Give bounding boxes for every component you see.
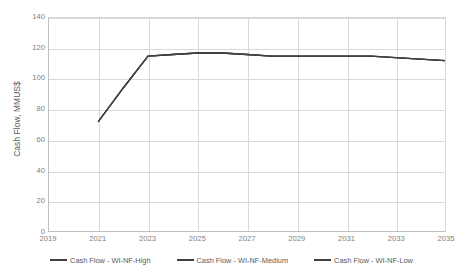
x-axis-tick-labels: 201920212023202520272029203120332035	[48, 234, 446, 246]
x-axis-tick-label: 2025	[177, 234, 217, 244]
y-axis-title: Cash Flow, MMUS$	[9, 0, 25, 238]
legend-entry[interactable]: Cash Flow - WI-NF-Low	[314, 256, 413, 265]
legend-label: Cash Flow - WI-NF-High	[70, 256, 150, 265]
legend-entry[interactable]: Cash Flow - WI-NF-High	[50, 256, 150, 265]
x-axis-tick-label: 2027	[227, 234, 267, 244]
y-axis-tick-label: 60	[24, 136, 45, 144]
series-line	[99, 53, 446, 121]
series-line	[99, 53, 446, 121]
x-axis-tick-label: 2021	[78, 234, 118, 244]
series-line	[99, 53, 446, 121]
cash-flow-line-chart: Cash Flow, MMUS$ 020406080100120140 2019…	[0, 0, 463, 274]
series-svg	[49, 18, 445, 231]
y-axis-tick-label: 120	[24, 44, 45, 52]
y-axis-title-text: Cash Flow, MMUS$	[12, 81, 22, 157]
x-axis-tick-label: 2035	[426, 234, 463, 244]
chart-legend: Cash Flow - WI-NF-HighCash Flow - WI-NF-…	[0, 253, 463, 267]
legend-line-swatch	[50, 259, 67, 261]
y-axis-tick-label: 100	[24, 74, 45, 82]
legend-line-swatch	[177, 259, 194, 261]
legend-label: Cash Flow - WI-NF-Low	[334, 256, 413, 265]
y-axis-tick-label: 40	[24, 167, 45, 175]
y-axis-tick-label: 20	[24, 197, 45, 205]
x-axis-tick-label: 2031	[327, 234, 367, 244]
y-axis-tick-label: 140	[24, 13, 45, 21]
x-axis-tick-label: 2019	[28, 234, 68, 244]
plot-area	[48, 17, 446, 232]
y-axis-tick-label: 80	[24, 105, 45, 113]
y-axis-tick-labels: 020406080100120140	[24, 17, 45, 232]
legend-label: Cash Flow - WI-NF-Medium	[197, 256, 289, 265]
x-axis-tick-label: 2023	[128, 234, 168, 244]
legend-entry[interactable]: Cash Flow - WI-NF-Medium	[177, 256, 289, 265]
x-axis-tick-label: 2029	[277, 234, 317, 244]
x-axis-tick-label: 2033	[376, 234, 416, 244]
legend-line-swatch	[314, 259, 331, 261]
